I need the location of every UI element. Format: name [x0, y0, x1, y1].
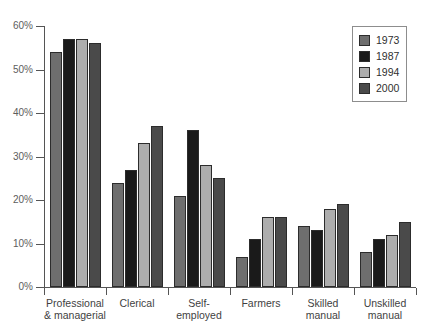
bar-group [112, 26, 163, 287]
bar [76, 39, 88, 287]
x-axis-tick [354, 288, 355, 295]
legend-label: 1994 [376, 67, 399, 78]
legend-item[interactable]: 1973 [359, 32, 399, 48]
y-axis-tick [36, 26, 44, 27]
category-label-line: Unskilled [348, 297, 422, 309]
bar [298, 226, 310, 287]
bar [373, 239, 385, 287]
legend-swatch-icon [359, 67, 370, 78]
bar [151, 126, 163, 287]
x-axis-tick [292, 288, 293, 295]
bar [399, 222, 411, 287]
y-axis-tick [36, 287, 44, 288]
y-axis-tick [36, 244, 44, 245]
legend-item[interactable]: 1987 [359, 48, 399, 64]
bar [249, 239, 261, 287]
bar [138, 143, 150, 287]
y-axis-tick [36, 70, 44, 71]
legend-swatch-icon [359, 35, 370, 46]
y-axis-label: 60% [0, 21, 33, 31]
legend-swatch-icon [359, 51, 370, 62]
bar [112, 183, 124, 287]
bar-chart: 0%10%20%30%40%50%60% Professional& manag… [0, 0, 429, 332]
y-axis-label: 30% [0, 152, 33, 162]
legend-item[interactable]: 1994 [359, 64, 399, 80]
y-axis-label: 20% [0, 195, 33, 205]
bar [174, 196, 186, 287]
bar-group [174, 26, 225, 287]
bar [187, 130, 199, 287]
y-axis-tick [36, 113, 44, 114]
legend-label: 1987 [376, 51, 399, 62]
bar [262, 217, 274, 287]
x-axis-tick [106, 288, 107, 295]
legend-item[interactable]: 2000 [359, 80, 399, 96]
y-axis-tick [36, 200, 44, 201]
category-label-line: & managerial [38, 309, 112, 321]
x-axis-tick [44, 288, 45, 295]
y-axis-label: 0% [0, 282, 33, 292]
bar [337, 204, 349, 287]
bar [386, 235, 398, 287]
bar [89, 43, 101, 287]
bar [311, 230, 323, 287]
x-axis-category-label: Unskilledmanual [348, 297, 422, 321]
y-axis-tick [36, 157, 44, 158]
bar [63, 39, 75, 287]
bar [360, 252, 372, 287]
bar [324, 209, 336, 287]
bar [213, 178, 225, 287]
legend-label: 1973 [376, 35, 399, 46]
category-label-line: employed [162, 309, 236, 321]
chart-title [6, 0, 426, 4]
y-axis-label: 50% [0, 65, 33, 75]
bar-group [298, 26, 349, 287]
bar [125, 170, 137, 287]
y-axis-line [44, 26, 45, 288]
bar [50, 52, 62, 287]
bar-group [236, 26, 287, 287]
x-axis-tick [230, 288, 231, 295]
chart-legend: 1973198719942000 [352, 26, 407, 102]
legend-swatch-icon [359, 83, 370, 94]
x-axis-tick [416, 288, 417, 295]
y-axis-label: 40% [0, 108, 33, 118]
bar-group [50, 26, 101, 287]
bar [236, 257, 248, 287]
legend-label: 2000 [376, 83, 399, 94]
y-axis-label: 10% [0, 239, 33, 249]
bar [275, 217, 287, 287]
category-label-line: manual [348, 309, 422, 321]
bar [200, 165, 212, 287]
x-axis-tick [168, 288, 169, 295]
